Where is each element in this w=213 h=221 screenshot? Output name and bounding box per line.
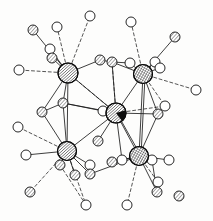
ligand-atom-hatched[interactable] [55,160,65,170]
ligand-atom-open[interactable] [45,44,55,54]
metal-center-m4[interactable] [58,142,77,161]
ligand-atom-open[interactable] [21,150,31,160]
ligand-atom-open[interactable] [52,22,62,32]
metal-center-m3[interactable] [106,103,126,123]
ligand-atom-open[interactable] [153,177,163,187]
ligand-atom-hatched[interactable] [153,109,163,119]
ligand-atom-hatched[interactable] [170,32,180,42]
ligand-atom-open[interactable] [155,63,165,73]
ligand-atom-open[interactable] [160,101,170,111]
ligand-atom-hatched[interactable] [107,157,117,167]
ligand-atom-open[interactable] [164,155,174,165]
metal-center-m2[interactable] [134,65,153,84]
ligand-atom-open[interactable] [85,11,95,21]
ligand-atom-hatched[interactable] [70,170,80,180]
ligand-atom-hatched[interactable] [107,57,117,67]
ligand-atom-open[interactable] [126,17,136,27]
ligand-atom-hatched[interactable] [93,136,103,146]
metal-center-m5[interactable] [130,147,149,166]
structure-figure: Coordination polyhedra network diagram [0,0,213,221]
ligand-atom-open[interactable] [125,58,135,68]
ligand-atom-open[interactable] [85,160,95,170]
ligand-atom-hatched[interactable] [47,53,57,63]
ligand-atom-open[interactable] [13,122,23,132]
ligand-atom-hatched[interactable] [58,98,68,108]
ligand-atom-hatched[interactable] [85,169,95,179]
ligand-atom-open[interactable] [191,85,201,95]
metal-center-m1[interactable] [58,63,78,83]
ligand-atom-hatched[interactable] [28,25,38,35]
ligand-atom-open[interactable] [81,200,91,210]
ligand-atom-hatched[interactable] [152,187,162,197]
ligand-atom-hatched[interactable] [37,107,47,117]
ligand-atom-open[interactable] [122,200,132,210]
ligand-atom-hatched[interactable] [95,55,105,65]
ligand-atom-hatched[interactable] [174,191,184,201]
ligand-atom-open[interactable] [14,65,24,75]
structure-canvas [0,0,213,221]
ligand-atom-hatched[interactable] [25,187,35,197]
ligand-atom-open[interactable] [117,155,127,165]
